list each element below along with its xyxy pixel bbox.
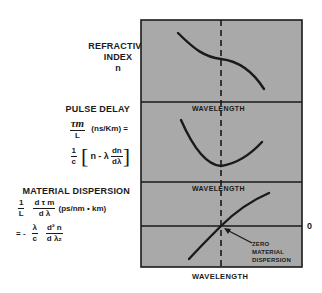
zero-axis-label: 0 bbox=[307, 221, 312, 231]
panel3-xlabel: WAVELENGTH bbox=[192, 272, 248, 281]
zero-material-dispersion-annotation: ZERO MATERIAL DISPERSION bbox=[252, 240, 291, 264]
annotation-line1: ZERO bbox=[252, 240, 291, 248]
annotation-line2: MATERIAL bbox=[252, 248, 291, 256]
annotation-line3: DISPERSION bbox=[252, 256, 291, 264]
panel1-xlabel: WAVELENGTH bbox=[192, 105, 245, 112]
panel2-xlabel: WAVELENGTH bbox=[192, 185, 245, 192]
